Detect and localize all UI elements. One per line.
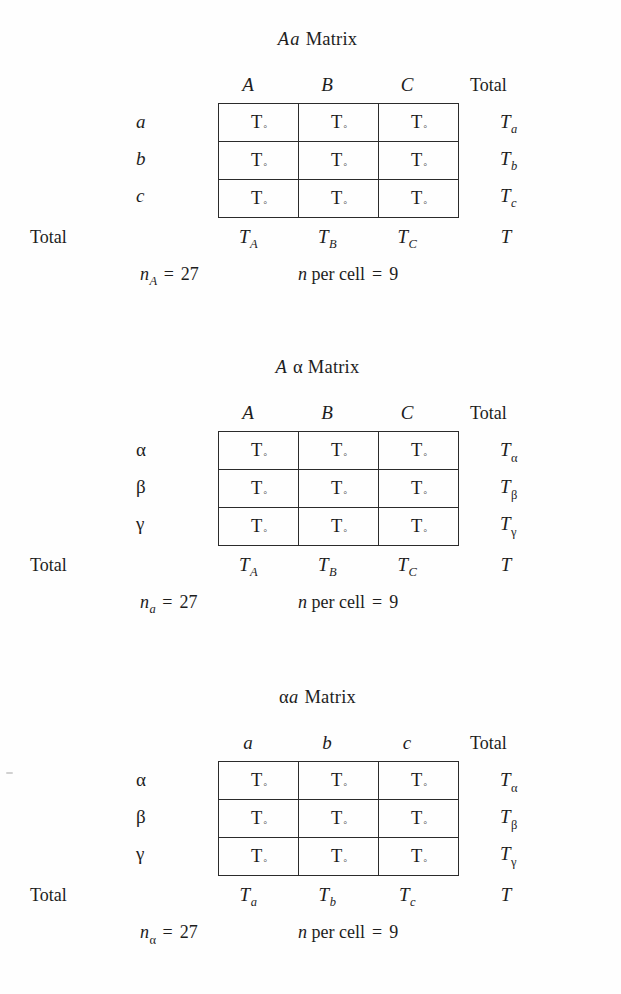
- matrix-cell: T◦: [219, 142, 299, 180]
- matrix-cell: T◦: [379, 432, 459, 470]
- footnote-n-total: na=27: [140, 588, 197, 618]
- matrix-cell: T◦: [299, 800, 379, 838]
- col-total-sub: a: [251, 895, 257, 909]
- row-total-base: T: [500, 148, 511, 169]
- column-total-2: Tb: [287, 880, 367, 912]
- matrix-cell: T◦: [379, 180, 459, 218]
- column-total-1: Ta: [208, 880, 288, 912]
- matrix-block-alpha-a: αaMatrix a b c Total α β γ T◦ T◦ T◦: [0, 688, 621, 926]
- row-total-sub: γ: [511, 525, 517, 539]
- footnote-per-cell-text: per cell: [312, 922, 365, 942]
- column-header-row: A B C Total: [0, 400, 621, 430]
- column-header-2: b: [287, 730, 367, 756]
- footnote-n-sub: α: [150, 933, 157, 947]
- column-header-3: C: [367, 72, 447, 98]
- equals-sign: =: [156, 922, 180, 942]
- row-label-1: a: [136, 103, 206, 140]
- matrix-cell: T◦: [219, 762, 299, 800]
- column-header-1: A: [208, 72, 288, 98]
- row-label-1: α: [136, 761, 206, 798]
- matrix-cell: T◦: [299, 142, 379, 180]
- matrix-title-alpha-a: αaMatrix: [0, 688, 621, 710]
- col-total-sub: B: [329, 565, 337, 579]
- column-header-row: A B C Total: [0, 72, 621, 102]
- matrix-title-symbol-1: α: [279, 687, 289, 707]
- footnote-per-cell: n per cell=9: [298, 260, 398, 288]
- table-row: T◦ T◦ T◦: [219, 800, 459, 838]
- row-label-3: c: [136, 177, 206, 214]
- row-total-base: T: [500, 476, 511, 497]
- column-total-3: TC: [367, 550, 447, 582]
- matrix-title-aa: AaMatrix: [0, 30, 621, 52]
- footnote-n-value: 27: [181, 264, 199, 284]
- matrix-cell: T◦: [379, 104, 459, 142]
- grand-total: T: [466, 222, 546, 252]
- row-label-group: α β γ: [136, 431, 206, 542]
- table-row: T◦ T◦ T◦: [219, 838, 459, 876]
- matrix-title-symbol-1: A: [276, 357, 289, 377]
- column-total-row: Total TA TB TC T: [0, 550, 621, 582]
- matrix-cell: T◦: [299, 762, 379, 800]
- row-total-sub: β: [511, 818, 517, 832]
- matrix-title-word: Matrix: [303, 357, 360, 377]
- row-total-sub: α: [511, 451, 518, 465]
- column-total-3: Tc: [367, 880, 447, 912]
- col-total-sub: b: [330, 895, 336, 909]
- row-total-base: T: [500, 769, 511, 790]
- footnote-per-cell: n per cell=9: [298, 918, 398, 946]
- equals-sign: =: [155, 592, 179, 612]
- column-total-1: TA: [208, 550, 288, 582]
- row-total-sub: b: [511, 159, 517, 173]
- table-row: T◦ T◦ T◦: [219, 142, 459, 180]
- matrix-cell: T◦: [379, 142, 459, 180]
- matrix-cell: T◦: [299, 470, 379, 508]
- total-row-label: Total: [30, 550, 67, 580]
- matrix-grid-aa: A B C Total a b c T◦ T◦ T◦ T◦ T◦ T◦: [0, 72, 621, 268]
- row-total-3: Tγ: [500, 505, 590, 542]
- matrix-cell: T◦: [379, 762, 459, 800]
- matrix-title-word: Matrix: [301, 29, 358, 49]
- table-row: T◦ T◦ T◦: [219, 470, 459, 508]
- col-total-base: T: [240, 884, 251, 905]
- row-total-2: Tβ: [500, 468, 590, 505]
- matrix-cell: T◦: [299, 508, 379, 546]
- row-total-3: Tc: [500, 177, 590, 214]
- row-total-base: T: [500, 185, 511, 206]
- row-label-group: a b c: [136, 103, 206, 214]
- matrix-cell-table: T◦ T◦ T◦ T◦ T◦ T◦ T◦ T◦ T◦: [218, 103, 459, 218]
- row-total-sub: c: [511, 196, 517, 210]
- matrix-cell: T◦: [219, 180, 299, 218]
- column-header-1: a: [208, 730, 288, 756]
- column-header-3: C: [367, 400, 447, 426]
- table-row: T◦ T◦ T◦: [219, 508, 459, 546]
- footnote-n-sub: a: [150, 602, 156, 616]
- column-total-3: TC: [367, 222, 447, 254]
- row-total-1: Ta: [500, 103, 590, 140]
- column-total-2: TB: [287, 222, 367, 254]
- column-total-row: Total Ta Tb Tc T: [0, 880, 621, 912]
- footnote-n-total: nA=27: [140, 260, 199, 290]
- col-total-sub: C: [409, 565, 417, 579]
- matrix-cell: T◦: [299, 104, 379, 142]
- equals-sign: =: [365, 264, 389, 284]
- footnote-n-base: n: [140, 922, 149, 942]
- row-total-2: Tb: [500, 140, 590, 177]
- footnote-per-cell-value: 9: [389, 922, 398, 942]
- column-header-total: Total: [470, 400, 550, 426]
- matrix-cell: T◦: [219, 508, 299, 546]
- footnote-per-cell-symbol: n: [298, 592, 307, 612]
- row-total-sub: a: [511, 122, 517, 136]
- footnote-per-cell-value: 9: [389, 592, 398, 612]
- col-total-sub: c: [410, 895, 416, 909]
- matrix-cell: T◦: [219, 470, 299, 508]
- column-header-2: B: [287, 400, 367, 426]
- scanned-page: AaMatrix A B C Total a b c T◦ T◦ T◦: [0, 0, 621, 994]
- row-total-sub: β: [511, 488, 517, 502]
- footnote-n-total: nα=27: [140, 918, 198, 948]
- footnote-per-cell: n per cell=9: [298, 588, 398, 616]
- equals-sign: =: [157, 264, 181, 284]
- row-total-group: Tα Tβ Tγ: [500, 431, 590, 542]
- row-total-1: Tα: [500, 761, 590, 798]
- row-total-3: Tγ: [500, 835, 590, 872]
- matrix-grid-alpha-a: a b c Total α β γ T◦ T◦ T◦ T◦ T◦ T◦: [0, 730, 621, 926]
